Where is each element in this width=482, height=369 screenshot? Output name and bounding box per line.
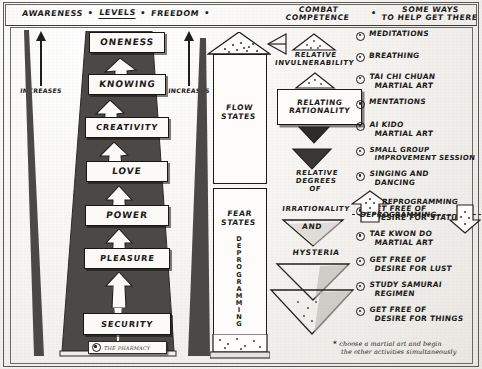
footnote-line1: choose a martial art and begin xyxy=(339,340,441,348)
practice-text: MEDITATIONS xyxy=(368,30,429,39)
header-combat-line2: COMPETENCE xyxy=(285,14,350,22)
header-item-freedom: FREEDOM xyxy=(150,10,199,18)
flow-states-label: FLOW STATES xyxy=(212,104,266,121)
down-triangle-small-icon xyxy=(297,126,331,144)
list-item[interactable]: MEDITATIONS xyxy=(356,30,480,41)
relative-invulnerability-label: RELATIVE INVULNERABILITY xyxy=(271,52,359,68)
bullet-icon xyxy=(356,122,365,131)
bullet-icon xyxy=(356,282,365,291)
level-card-security[interactable]: SECURITY xyxy=(83,313,171,335)
practice-6-line2: DANCING xyxy=(367,179,427,188)
list-item[interactable]: STUDY SAMURAI REGIMEN xyxy=(356,281,480,298)
list-item[interactable]: TAI CHI CHUAN MARTIAL ART xyxy=(356,73,480,90)
practice-10-line1: STUDY SAMURAI xyxy=(369,280,442,289)
level-card-power[interactable]: POWER xyxy=(85,205,169,226)
practice-11-line1: GET FREE OF xyxy=(369,305,427,314)
list-item[interactable]: BREATHING xyxy=(356,52,480,63)
header-left-group: AWARENESS • LEVELS • FREEDOM • xyxy=(22,4,215,24)
level-label-oneness: ONENESS xyxy=(99,38,154,47)
irrationality-label: IRRATIONALITY xyxy=(268,206,365,214)
level-label-creativity: CREATIVITY xyxy=(95,123,158,132)
bullet-icon xyxy=(356,172,365,181)
rd-line3: OF xyxy=(309,185,322,193)
ri-line1: RELATIVE xyxy=(294,51,337,59)
practice-text: MENTATIONS xyxy=(368,98,426,107)
header-separator-1: • xyxy=(83,10,99,18)
practice-4-line1: AI KIDO xyxy=(369,120,404,129)
fear-states-line1: FEAR xyxy=(227,209,253,218)
fear-states-label: FEAR STATES xyxy=(212,210,266,227)
flow-states-line1: FLOW xyxy=(226,103,254,112)
header-separator-3: • xyxy=(199,10,215,18)
practice-5-line2: IMPROVEMENT SESSION xyxy=(368,154,476,162)
flow-arrow-head-icon xyxy=(207,32,271,56)
level-label-love: LOVE xyxy=(112,167,143,176)
flow-states-line2: STATES xyxy=(221,112,257,121)
practice-9-line2: DESIRE FOR LUST xyxy=(367,264,452,273)
practice-0-line1: MEDITATIONS xyxy=(368,29,429,38)
list-item[interactable]: SMALL GROUP IMPROVEMENT SESSION xyxy=(356,146,480,162)
relative-invulnerability-triangle-icon xyxy=(291,33,337,51)
practice-text: SMALL GROUP IMPROVEMENT SESSION xyxy=(368,146,477,162)
practice-6-line1: SINGING AND xyxy=(369,169,429,178)
level-label-power: POWER xyxy=(106,211,149,220)
practice-text: TAI CHI CHUAN MARTIAL ART xyxy=(367,73,435,90)
header-separator-2: • xyxy=(135,10,151,18)
level-card-love[interactable]: LOVE xyxy=(86,161,168,182)
practice-text: AI KIDO MARTIAL ART xyxy=(367,121,434,138)
second-triangle-icon xyxy=(294,72,336,89)
practice-1-line1: BREATHING xyxy=(368,51,420,60)
fear-states-line2: STATES xyxy=(221,218,257,227)
header-item-levels: LEVELS xyxy=(98,9,136,19)
level-card-creativity[interactable]: CREATIVITY xyxy=(85,117,169,138)
bullet-icon xyxy=(356,232,365,241)
level-card-knowing[interactable]: KNOWING xyxy=(88,74,166,95)
practices-list: MEDITATIONS BREATHING TAI CHI CHUAN MART… xyxy=(356,30,480,323)
practice-9-line1: GET FREE OF xyxy=(369,255,427,264)
level-card-oneness[interactable]: ONENESS xyxy=(89,32,165,53)
level-label-security: SECURITY xyxy=(100,320,153,329)
bullet-icon xyxy=(356,53,365,62)
practice-11-line2: DESIRE FOR THINGS xyxy=(367,314,463,323)
relating-rationality-box[interactable]: RELATING RATIONALITY xyxy=(277,89,362,125)
hysteria-triangle-2-icon xyxy=(268,288,356,336)
fear-states-base-icon xyxy=(210,334,270,360)
practice-8-line1: TAE KWON DO xyxy=(369,229,433,238)
level-label-knowing: KNOWING xyxy=(98,80,156,89)
bullet-icon xyxy=(356,307,365,316)
right-dark-wedge xyxy=(186,38,212,358)
bullet-icon xyxy=(356,147,365,156)
bullet-icon xyxy=(356,75,365,84)
footnote-marker: * xyxy=(333,340,337,348)
ri-line2: INVULNERABILITY xyxy=(274,59,354,67)
practice-text: STUDY SAMURAI REGIMEN xyxy=(367,281,441,298)
bullet-icon xyxy=(356,32,365,41)
deprogramming-label: DEPROGRAMMING xyxy=(360,211,437,219)
practice-text: BREATHING xyxy=(368,52,420,61)
hysteria-label: HYSTERIA xyxy=(271,249,360,258)
list-item[interactable]: SINGING AND DANCING xyxy=(356,170,480,187)
list-item[interactable]: MENTATIONS xyxy=(356,98,480,109)
list-item[interactable]: GET FREE OF DESIRE FOR THINGS xyxy=(356,306,480,323)
practice-text: GET FREE OF DESIRE FOR LUST xyxy=(367,256,453,273)
reprogramming-label: REPROGRAMMING xyxy=(382,198,459,206)
seal-icon xyxy=(92,343,101,352)
deprogramming-vertical-label: DEPROGRAMMING xyxy=(232,236,246,328)
practice-text: SINGING AND DANCING xyxy=(367,170,428,187)
level-label-pleasure: PLEASURE xyxy=(99,254,155,263)
relative-degrees-label: RELATIVE DEGREES OF xyxy=(271,170,362,193)
practice-8-line2: MARTIAL ART xyxy=(367,239,433,248)
list-item[interactable]: GET FREE OF DESIRE FOR LUST xyxy=(356,256,480,273)
vchar-12: G xyxy=(232,321,246,328)
practice-10-line2: REGIMEN xyxy=(367,289,440,298)
list-item[interactable]: AI KIDO MARTIAL ART xyxy=(356,121,480,138)
practice-5-line1: SMALL GROUP xyxy=(369,146,430,154)
and-label: AND xyxy=(287,223,336,231)
footnote: * choose a martial art and begin the oth… xyxy=(333,340,481,356)
rd-line1: RELATIVE xyxy=(296,169,339,177)
practice-text: TAE KWON DO MARTIAL ART xyxy=(367,230,434,247)
level-card-pleasure[interactable]: PLEASURE xyxy=(84,248,170,269)
header-item-awareness: AWARENESS xyxy=(21,10,83,18)
deprogramming-arrow-down-icon xyxy=(449,204,481,234)
ladder-arrow-to-pleasure-icon xyxy=(103,272,137,308)
